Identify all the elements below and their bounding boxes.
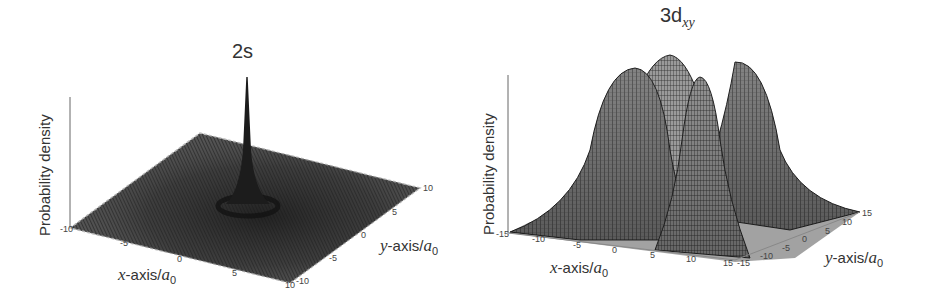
z-axis-label: Probability density bbox=[480, 113, 497, 235]
y-tick: -15 bbox=[737, 258, 750, 268]
x-tick: -10 bbox=[532, 234, 545, 244]
x-tick: 15 bbox=[723, 258, 733, 268]
y-tick: -5 bbox=[782, 243, 790, 253]
x-tick: 10 bbox=[686, 254, 696, 264]
chart-title: 2s bbox=[232, 40, 253, 63]
y-tick: -5 bbox=[329, 253, 337, 263]
x-tick: 5 bbox=[650, 250, 655, 260]
plot-3dxy: 3dxy Probability density -15 -10 -5 0 5 … bbox=[460, 0, 929, 302]
plot-2s: 2s Probability density -10 -5 0 5 10 10 … bbox=[0, 0, 460, 302]
x-axis-label: x-axis/a0 bbox=[118, 265, 176, 286]
x-tick: -5 bbox=[120, 238, 128, 248]
y-axis-label: y-axis/a0 bbox=[380, 236, 438, 257]
y-tick: 15 bbox=[862, 208, 872, 218]
z-axis-label: Probability density bbox=[36, 114, 53, 236]
x-tick: -15 bbox=[496, 229, 509, 239]
y-axis-label: y-axis/a0 bbox=[825, 248, 883, 269]
x-tick: 10 bbox=[285, 280, 295, 290]
chart-title: 3dxy bbox=[660, 4, 695, 31]
y-tick: 10 bbox=[423, 183, 433, 193]
y-tick: 5 bbox=[825, 226, 830, 236]
x-tick: 5 bbox=[232, 268, 237, 278]
x-axis-label: x-axis/a0 bbox=[550, 258, 608, 279]
x-tick: 0 bbox=[612, 245, 617, 255]
x-tick: -10 bbox=[60, 224, 73, 234]
y-tick: 0 bbox=[361, 230, 366, 240]
y-tick: 0 bbox=[802, 234, 807, 244]
y-tick: 10 bbox=[842, 217, 852, 227]
y-tick: -10 bbox=[296, 276, 309, 286]
y-tick: -10 bbox=[760, 251, 773, 261]
x-tick: -5 bbox=[573, 240, 581, 250]
x-tick: 0 bbox=[177, 254, 182, 264]
y-tick: 5 bbox=[392, 207, 397, 217]
